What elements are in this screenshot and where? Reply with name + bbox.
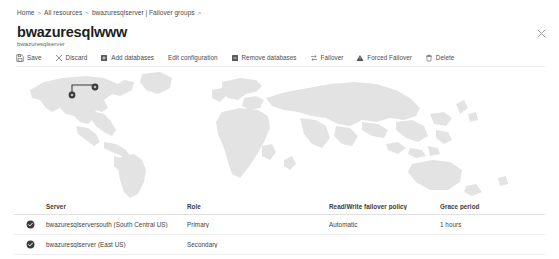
- status-check-icon: [14, 220, 46, 229]
- warning-triangle-icon: [356, 54, 364, 62]
- column-header-server[interactable]: Server: [46, 203, 187, 210]
- breadcrumb-item-all-resources[interactable]: All resources: [44, 9, 82, 16]
- cell-server: bwazuresqlserversouth (South Central US): [46, 221, 187, 228]
- forced-failover-label: Forced Failover: [367, 54, 412, 62]
- save-label: Save: [27, 54, 42, 62]
- close-icon[interactable]: [535, 27, 548, 40]
- save-icon: [16, 54, 24, 62]
- add-databases-label: Add databases: [111, 54, 154, 62]
- cell-grace-period: 1 hours: [440, 221, 540, 228]
- page-subtitle: bwazuresqlserver: [17, 41, 65, 47]
- breadcrumb-separator: >: [85, 10, 89, 16]
- add-databases-button[interactable]: Add databases: [100, 51, 160, 65]
- world-map[interactable]: [0, 68, 559, 198]
- trash-icon: [425, 54, 433, 62]
- cell-server: bwazuresqlserver (East US): [46, 241, 187, 248]
- table-row[interactable]: bwazuresqlserversouth (South Central US)…: [14, 215, 545, 235]
- cell-policy: Automatic: [329, 221, 440, 228]
- breadcrumb-item-home[interactable]: Home: [17, 9, 35, 16]
- delete-label: Delete: [436, 54, 455, 62]
- breadcrumb-item-failover-groups[interactable]: bwazuresqlserver | Failover groups: [92, 9, 195, 16]
- save-button[interactable]: Save: [16, 51, 48, 65]
- column-header-role[interactable]: Role: [187, 203, 329, 210]
- page-title: bwazuresqlwww: [17, 24, 127, 40]
- table-header-row: Server Role Read/Write failover policy G…: [14, 199, 545, 215]
- column-header-policy[interactable]: Read/Write failover policy: [329, 203, 440, 210]
- failover-button[interactable]: Failover: [310, 51, 350, 65]
- edit-configuration-button[interactable]: Edit configuration: [167, 51, 224, 65]
- remove-database-icon: [231, 54, 239, 62]
- breadcrumb-separator: >: [38, 10, 42, 16]
- discard-button[interactable]: Discard: [55, 51, 94, 65]
- breadcrumb: Home > All resources > bwazuresqlserver …: [17, 9, 201, 16]
- cell-role: Primary: [187, 221, 329, 228]
- failover-swap-icon: [310, 54, 318, 62]
- delete-button[interactable]: Delete: [425, 51, 461, 65]
- failover-members-table: Server Role Read/Write failover policy G…: [14, 199, 545, 255]
- add-database-icon: [100, 54, 108, 62]
- remove-databases-button[interactable]: Remove databases: [231, 51, 303, 65]
- edit-configuration-label: Edit configuration: [168, 54, 218, 62]
- status-check-icon: [14, 240, 46, 249]
- column-header-grace-period[interactable]: Grace period: [440, 203, 540, 210]
- command-toolbar: Save Discard Add databases Edit configur…: [16, 50, 460, 65]
- remove-databases-label: Remove databases: [242, 54, 297, 62]
- table-row[interactable]: bwazuresqlserver (East US) Secondary: [14, 235, 545, 255]
- failover-label: Failover: [321, 54, 344, 62]
- discard-label: Discard: [66, 54, 88, 62]
- breadcrumb-separator-trailing: >: [198, 10, 202, 16]
- toolbar-divider: [16, 66, 545, 67]
- discard-x-icon: [55, 54, 63, 62]
- cell-role: Secondary: [187, 241, 329, 248]
- forced-failover-button[interactable]: Forced Failover: [356, 51, 418, 65]
